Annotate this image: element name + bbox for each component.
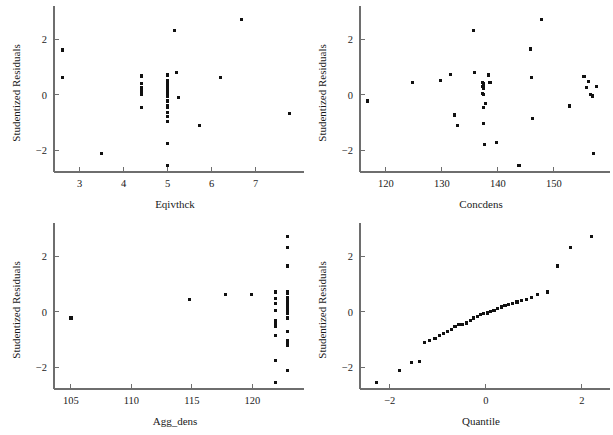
- data-point: [590, 235, 593, 238]
- data-point: [482, 106, 485, 109]
- data-point: [177, 96, 180, 99]
- data-point: [446, 330, 449, 333]
- data-point: [286, 330, 289, 333]
- data-point: [457, 323, 460, 326]
- x-axis-title: Quantile: [462, 415, 500, 427]
- data-point: [274, 309, 277, 312]
- y-tick-label: 2: [348, 35, 353, 46]
- data-point: [469, 319, 472, 322]
- data-point: [503, 304, 506, 307]
- plot-canvas-concdens: 120130140150−202ConcdensStudentized Resi…: [306, 0, 612, 217]
- data-point: [472, 316, 475, 319]
- data-point-group: [69, 235, 289, 384]
- data-point: [482, 83, 485, 86]
- data-point: [461, 323, 464, 326]
- y-tick-label: −2: [36, 146, 47, 157]
- data-point: [286, 316, 289, 319]
- data-point: [398, 369, 401, 372]
- x-tick-label: 120: [378, 179, 394, 190]
- data-point: [507, 303, 510, 306]
- y-tick-label: 0: [348, 91, 353, 102]
- data-point: [250, 293, 253, 296]
- data-point: [439, 79, 442, 82]
- data-point: [274, 359, 277, 362]
- data-point: [375, 381, 378, 384]
- data-point: [511, 302, 514, 305]
- data-point: [286, 344, 289, 347]
- data-point: [483, 143, 486, 146]
- data-point: [140, 82, 143, 85]
- data-point: [428, 339, 431, 342]
- plot-canvas-agg_dens: 105110115120−202Agg_densStudentized Resi…: [0, 217, 306, 434]
- data-point: [489, 310, 492, 313]
- data-point: [100, 152, 103, 155]
- data-point: [536, 293, 539, 296]
- data-point: [286, 292, 289, 295]
- data-point: [240, 18, 243, 21]
- data-point: [173, 29, 176, 32]
- data-point: [515, 300, 518, 303]
- scatter-panel-eqivthck: 34567−202EqivthckStudentized Residuals: [0, 0, 306, 217]
- x-tick-label: 150: [546, 179, 562, 190]
- y-tick-label: −2: [342, 363, 353, 374]
- data-point: [140, 106, 143, 109]
- x-tick-label: 140: [490, 179, 506, 190]
- x-tick-label: 4: [121, 179, 127, 190]
- data-point: [592, 152, 595, 155]
- plot-canvas-quantile: −202−202QuantileStudentized Residuals: [306, 217, 612, 434]
- data-point: [274, 325, 277, 328]
- data-point: [198, 124, 201, 127]
- x-tick-label: 6: [209, 179, 214, 190]
- data-point: [587, 80, 590, 83]
- data-point: [274, 381, 277, 384]
- data-point: [492, 309, 495, 312]
- y-tick-label: 0: [42, 308, 47, 319]
- data-point: [453, 114, 456, 117]
- x-tick-label: 0: [483, 396, 488, 407]
- y-tick-label: 2: [42, 252, 47, 263]
- data-point: [274, 334, 277, 337]
- data-point: [500, 305, 503, 308]
- data-point: [595, 85, 598, 88]
- data-point: [520, 299, 523, 302]
- y-tick-label: 0: [42, 91, 47, 102]
- data-point: [530, 76, 533, 79]
- y-tick-label: 2: [42, 35, 47, 46]
- data-point: [274, 302, 277, 305]
- data-point: [286, 311, 289, 314]
- data-point: [525, 298, 528, 301]
- data-point: [286, 369, 289, 372]
- x-axis-title: Concdens: [459, 198, 502, 210]
- x-tick-label: 3: [77, 179, 82, 190]
- data-point: [473, 71, 476, 74]
- data-point: [568, 104, 571, 107]
- data-point: [166, 115, 169, 118]
- data-point: [188, 298, 191, 301]
- data-point: [582, 75, 585, 78]
- data-point: [166, 111, 169, 114]
- data-point-group: [61, 18, 291, 167]
- data-point: [585, 86, 588, 89]
- data-point: [517, 164, 520, 167]
- data-point: [166, 164, 169, 167]
- y-tick-label: −2: [36, 363, 47, 374]
- data-point: [140, 74, 143, 77]
- x-axis-title: Agg_dens: [153, 415, 198, 427]
- data-point: [442, 332, 445, 335]
- data-point: [61, 48, 64, 51]
- data-point: [286, 246, 289, 249]
- data-point: [274, 290, 277, 293]
- plot-canvas-eqivthck: 34567−202EqivthckStudentized Residuals: [0, 0, 306, 217]
- y-axis-title: Studentized Residuals: [316, 44, 328, 141]
- data-point: [546, 290, 549, 293]
- data-point: [484, 102, 487, 105]
- data-point: [366, 99, 369, 102]
- data-point: [166, 99, 169, 102]
- data-point: [286, 264, 289, 267]
- data-point: [166, 142, 169, 145]
- data-point: [456, 124, 459, 127]
- data-point: [487, 73, 490, 76]
- data-point: [166, 106, 169, 109]
- data-point: [166, 95, 169, 98]
- data-point: [175, 71, 178, 74]
